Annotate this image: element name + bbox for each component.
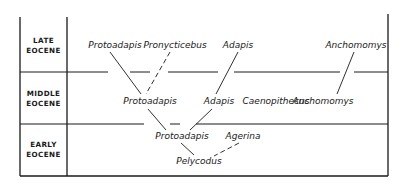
svg-text:EOCENE: EOCENE [26,150,61,159]
branch-pronycticebus [146,52,170,94]
taxon-early-protoadapis: Protoadapis [155,131,209,141]
branch-adapis-late [216,52,238,94]
phylogeny-diagram: LATE EOCENE MIDDLE EOCENE EARLY EOCENE P… [0,0,414,184]
epoch-label-middle: MIDDLE EOCENE [26,89,61,108]
taxon-middle-adapis: Adapis [203,96,235,106]
taxon-early-agerina: Agerina [225,131,261,141]
branch-protoadapis-middle [148,109,166,130]
branch-protoadapis-early [181,143,194,155]
taxon-late-anchomomys: Anchomomys [324,40,386,50]
taxon-middle-protoadapis: Protoadapis [123,96,177,106]
taxon-late-protoadapis: Protoadapis [88,40,142,50]
chart-frame [20,14,388,176]
branch-protoadapis-late [110,52,141,94]
branch-anchomomys [337,52,354,94]
taxon-early-pelycodus: Pelycodus [176,156,222,166]
branch-adapis-middle [190,109,212,130]
svg-text:LATE: LATE [33,36,54,45]
svg-text:EARLY: EARLY [30,140,57,149]
branch-agerina [214,143,239,156]
taxon-late-pronycticebus: Pronycticebus [143,40,207,50]
epoch-label-early: EARLY EOCENE [26,140,61,159]
taxon-middle-anchomomys: Anchomomys [291,96,353,106]
taxon-late-adapis: Adapis [222,40,254,50]
svg-text:MIDDLE: MIDDLE [27,89,61,98]
svg-text:EOCENE: EOCENE [26,46,61,55]
epoch-label-late: LATE EOCENE [26,36,61,55]
svg-text:EOCENE: EOCENE [26,99,61,108]
